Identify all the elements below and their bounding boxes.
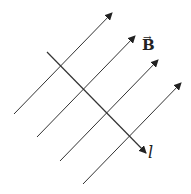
field-line-4 <box>83 83 181 184</box>
magnetic-field-diagram <box>0 0 191 194</box>
field-line-3 <box>60 60 158 161</box>
field-line-1 <box>14 13 112 114</box>
conductor-label-l: l <box>148 145 153 161</box>
conductor-arrow <box>47 52 146 153</box>
field-label-b: → B <box>142 38 155 53</box>
field-line-2 <box>37 36 135 137</box>
vector-arrow-icon: → <box>143 33 151 43</box>
field-lines-group <box>14 13 181 184</box>
